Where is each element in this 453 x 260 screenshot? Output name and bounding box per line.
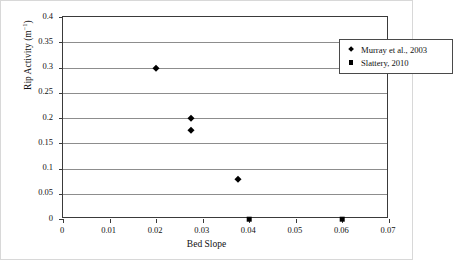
gridline [63, 118, 387, 119]
x-tick-mark [156, 219, 157, 223]
y-tick-label: 0.2 [42, 113, 53, 122]
x-tick-mark [63, 219, 64, 223]
y-tick-mark [59, 93, 63, 94]
y-tick-mark [59, 143, 63, 144]
diamond-marker-icon [344, 47, 358, 51]
data-point [188, 115, 194, 121]
x-tick-label: 0.05 [287, 226, 302, 235]
x-tick-label: 0.06 [334, 226, 349, 235]
legend-item-slattery: Slattery, 2010 [344, 56, 448, 69]
gridline [63, 169, 387, 170]
legend-label-slattery: Slattery, 2010 [358, 58, 409, 68]
y-tick-mark [59, 194, 63, 195]
y-tick-mark [59, 42, 63, 43]
legend-label-murray: Murray et al., 2003 [358, 45, 427, 55]
x-tick-mark [296, 219, 297, 223]
x-tick-label: 0.04 [241, 226, 256, 235]
x-tick-label: 0.07 [381, 226, 396, 235]
y-tick-label: 0.3 [42, 62, 53, 71]
y-tick-mark [59, 68, 63, 69]
y-tick-label: 0.4 [42, 12, 53, 21]
x-tick-label: 0 [60, 226, 64, 235]
square-marker-icon [344, 60, 358, 65]
data-point [247, 217, 252, 222]
x-tick-label: 0.02 [148, 226, 163, 235]
data-point [234, 175, 240, 181]
x-tick-label: 0.01 [101, 226, 116, 235]
y-tick-mark [59, 118, 63, 119]
y-tick-label: 0.1 [42, 163, 53, 172]
y-tick-label: 0.05 [38, 188, 53, 197]
chart-legend: Murray et al., 2003 Slattery, 2010 [339, 39, 453, 74]
legend-item-murray: Murray et al., 2003 [344, 43, 448, 56]
y-tick-mark [59, 169, 63, 170]
y-tick-label: 0 [49, 214, 53, 223]
data-point [153, 64, 159, 70]
data-point [340, 217, 345, 222]
plot-area: Murray et al., 2003 Slattery, 2010 [62, 16, 388, 218]
x-tick-mark [389, 219, 390, 223]
gridline [63, 194, 387, 195]
y-axis-title: Rip Activity (m−1) [21, 0, 33, 125]
x-tick-mark [110, 219, 111, 223]
y-tick-label: 0.15 [38, 138, 53, 147]
y-tick-label: 0.25 [38, 87, 53, 96]
x-tick-label: 0.03 [194, 226, 209, 235]
data-point [188, 126, 194, 132]
x-tick-mark [203, 219, 204, 223]
gridline [63, 143, 387, 144]
y-tick-mark [59, 17, 63, 18]
gridline [63, 93, 387, 94]
y-tick-label: 0.35 [38, 37, 53, 46]
x-axis-title: Bed Slope [1, 239, 412, 249]
